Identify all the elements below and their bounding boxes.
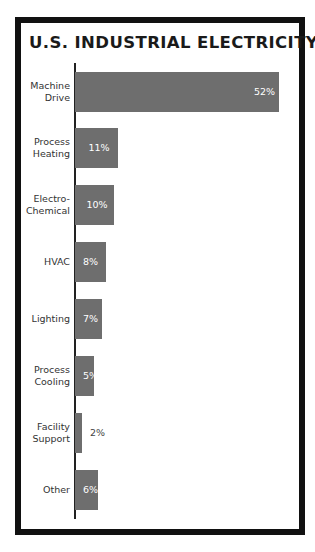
category-label-line: Process [34,364,70,376]
category-label-line: Cooling [34,376,70,388]
category-label-line: Drive [30,92,70,104]
bar-row: FacilitySupport2% [0,413,315,453]
category-label-line: Support [32,433,70,445]
category-label: Other [43,470,70,510]
category-label-line: Heating [33,148,70,160]
bar-row: ProcessCooling5% [0,356,315,396]
value-label: 8% [83,242,98,282]
category-label: FacilitySupport [32,413,70,453]
category-label-line: HVAC [44,256,70,268]
category-label-line: Facility [32,421,70,433]
bar [75,72,279,112]
category-label-line: Other [43,484,70,496]
category-label: ProcessCooling [34,356,70,396]
category-label: Electro-Chemical [26,185,70,225]
value-label: 10% [87,185,108,225]
value-label: 5% [83,356,98,396]
bar-row: Electro-Chemical10% [0,185,315,225]
category-label: Lighting [32,299,70,339]
bar-row: Lighting7% [0,299,315,339]
bar-row: MachineDrive52% [0,72,315,112]
category-label-line: Lighting [32,313,70,325]
bar-row: Other6% [0,470,315,510]
value-label: 6% [83,470,98,510]
category-label: MachineDrive [30,72,70,112]
value-label: 11% [89,128,110,168]
bar [75,413,82,453]
category-label-line: Process [33,136,70,148]
bar-row: ProcessHeating11% [0,128,315,168]
value-label: 52% [254,72,275,112]
category-label-line: Electro- [26,193,70,205]
category-label: HVAC [44,242,70,282]
value-label: 2% [90,413,105,453]
category-label: ProcessHeating [33,128,70,168]
bar-row: HVAC8% [0,242,315,282]
chart-title: U.S. INDUSTRIAL ELECTRICITY USE [29,33,315,52]
category-label-line: Chemical [26,205,70,217]
value-label: 7% [83,299,98,339]
category-label-line: Machine [30,80,70,92]
